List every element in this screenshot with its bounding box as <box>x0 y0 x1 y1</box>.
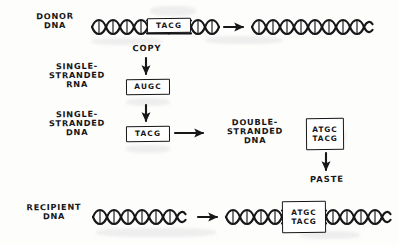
ssdna-sequence-text: TACG <box>135 129 161 138</box>
single-stranded-dna-label: SINGLE- STRANDED DNA <box>38 110 116 139</box>
recipient-dna-strand <box>93 210 186 224</box>
rna-sequence-text: AUGC <box>134 82 161 91</box>
recipient-inserted-sequence-box: ATGC TACG <box>282 201 326 233</box>
recipient-dna-label: RECIPIENT DNA <box>16 203 92 222</box>
dsdna-sequence-box: ATGC TACG <box>306 118 344 150</box>
recipient-sequence-top: ATGC <box>291 208 316 217</box>
rna-sequence-box: AUGC <box>126 79 170 95</box>
dsdna-sequence-top: ATGC <box>312 125 337 134</box>
donor-sequence-box: TACG <box>147 18 191 33</box>
copy-step-label: COPY <box>126 44 168 54</box>
donor-sequence-text: TACG <box>156 21 182 30</box>
recipient-sequence-bottom: TACG <box>291 217 316 226</box>
donor-dna-label: DONOR DNA <box>22 12 88 31</box>
ssdna-sequence-box: TACG <box>126 126 170 142</box>
double-stranded-dna-label: DOUBLE- STRANDED DNA <box>214 118 296 147</box>
dsdna-sequence-bottom: TACG <box>312 134 337 143</box>
single-stranded-rna-label: SINGLE- STRANDED RNA <box>38 62 116 91</box>
gene-transfer-diagram: DONOR DNA SINGLE- STRANDED RNA SINGLE- S… <box>0 0 398 244</box>
donor-dna-strand-intact <box>252 20 373 34</box>
paste-step-label: PASTE <box>304 175 350 185</box>
